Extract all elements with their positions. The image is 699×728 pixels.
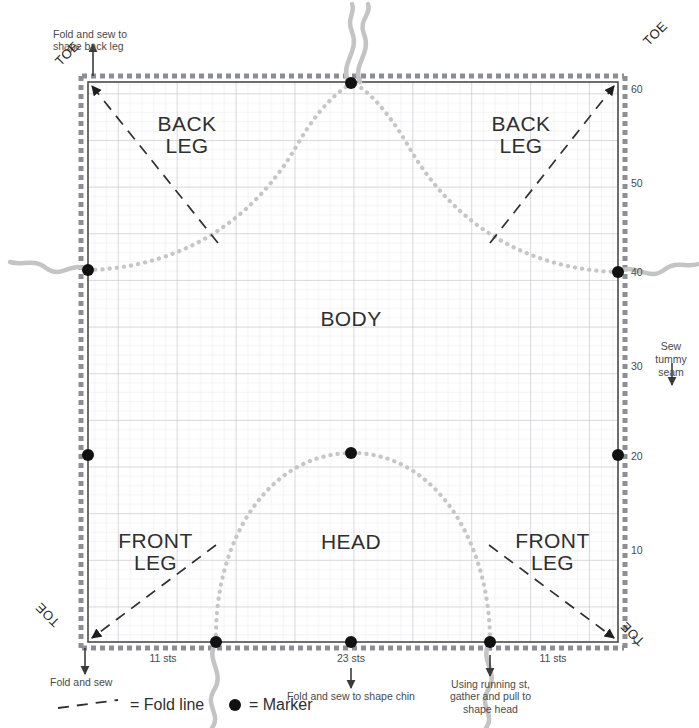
marker-bottom-right <box>484 636 496 648</box>
yarn-bottom-left-strand <box>211 642 218 728</box>
legend-marker-label: = Marker <box>249 696 313 715</box>
stitch-count-center: 23 sts <box>306 652 396 664</box>
region-label-front-leg-left: FRONT LEG <box>98 530 213 574</box>
axis-number-30: 30 <box>631 360 643 372</box>
note-sew-tummy-seam: Sew tummy seam <box>646 340 696 379</box>
marker-right-40 <box>612 266 624 278</box>
region-label-front-leg-right: FRONT LEG <box>495 530 610 574</box>
marker-bottom-left <box>210 636 222 648</box>
region-label-body: BODY <box>296 308 406 330</box>
axis-number-10: 10 <box>631 544 643 556</box>
marker-top-center <box>345 77 357 89</box>
stitch-count-right: 11 sts <box>508 652 598 664</box>
legend-fold-line-glyph <box>58 700 118 708</box>
note-bottom-left: Fold and sew <box>50 676 112 688</box>
knitting-chart-canvas <box>0 0 699 728</box>
axis-number-40: 40 <box>631 266 643 278</box>
legend-marker-glyph <box>229 699 241 711</box>
marker-right-20 <box>612 449 624 461</box>
yarn-left-strand <box>10 262 88 272</box>
axis-number-50: 50 <box>631 177 643 189</box>
note-shape-head: Using running st, gather and pull to sha… <box>428 678 553 715</box>
yarn-top-strand-b <box>358 4 369 82</box>
axis-number-20: 20 <box>631 450 643 462</box>
yarn-right-strand <box>618 264 698 274</box>
region-label-back-leg-left: BACK LEG <box>132 113 242 157</box>
diagram-page: Fold and sew to shape back leg TOE TOE T… <box>0 0 699 728</box>
yarn-top-strand-a <box>346 4 354 82</box>
region-label-head: HEAD <box>296 531 406 553</box>
stitch-count-left: 11 sts <box>118 652 208 664</box>
axis-number-60: 60 <box>631 83 643 95</box>
marker-left-20 <box>82 449 94 461</box>
marker-left-40 <box>82 264 94 276</box>
legend-fold-line-label: = Fold line <box>130 696 204 715</box>
region-label-back-leg-right: BACK LEG <box>466 113 576 157</box>
marker-bottom-center <box>345 636 357 648</box>
axis-number-1: 1 <box>631 634 637 646</box>
marker-head-apex <box>345 447 357 459</box>
